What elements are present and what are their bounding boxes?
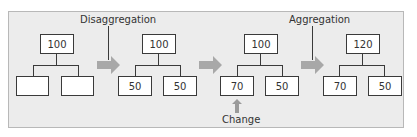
stage4-parent-box: 120	[346, 34, 380, 54]
connector	[180, 65, 181, 76]
stage4-child-box-left: 70	[323, 76, 357, 96]
stage1-child-box-left	[16, 76, 49, 96]
up-arrow-icon	[232, 99, 242, 113]
aggregation-label: Aggregation	[289, 14, 350, 25]
connector	[282, 65, 283, 76]
stage1-child-box-right	[61, 76, 94, 96]
stage4-child-box-right: 50	[368, 76, 402, 96]
connector	[260, 54, 261, 65]
connector	[135, 65, 136, 76]
stage2-parent-box: 100	[142, 34, 176, 54]
connector	[237, 65, 238, 76]
aggregation-pointer	[312, 26, 313, 60]
connector	[135, 65, 181, 66]
connector	[339, 65, 385, 66]
stage2-child-box-right: 50	[163, 76, 197, 96]
connector	[56, 54, 57, 65]
connector	[33, 65, 79, 66]
right-arrow-icon	[199, 56, 223, 74]
connector	[78, 65, 79, 76]
stage2-child-box-left: 50	[118, 76, 152, 96]
stage3-parent-box: 100	[244, 34, 278, 54]
disaggregation-label: Disaggregation	[80, 14, 156, 25]
connector	[362, 54, 363, 65]
connector	[33, 65, 34, 76]
stage3-child-box-left: 70	[220, 76, 254, 96]
connector	[339, 65, 340, 76]
connector	[158, 54, 159, 65]
stage1-parent-box: 100	[40, 34, 74, 54]
stage3-child-box-right: 50	[265, 76, 299, 96]
disaggregation-pointer	[108, 26, 109, 60]
change-label: Change	[222, 114, 260, 125]
connector	[384, 65, 385, 76]
connector	[237, 65, 283, 66]
